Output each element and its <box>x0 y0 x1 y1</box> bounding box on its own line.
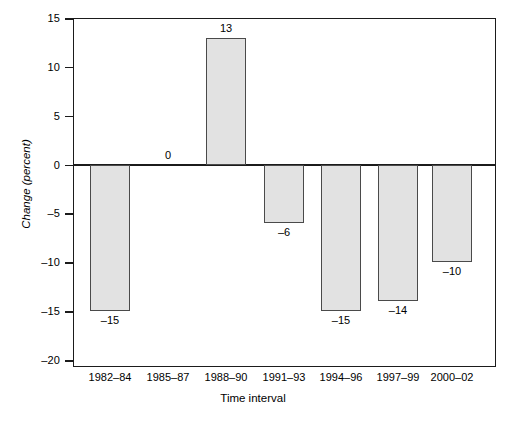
x-tick-label: 2000–02 <box>418 371 486 383</box>
bar-1988-90 <box>206 38 246 165</box>
bar-value-label: –15 <box>90 315 130 326</box>
bar-value-label: –10 <box>432 266 472 277</box>
y-tick-mark <box>65 67 73 69</box>
y-tick-mark <box>65 360 73 362</box>
y-tick-label: –20 <box>41 355 60 366</box>
y-tick-mark <box>65 165 73 167</box>
y-tick-label: –10 <box>41 257 60 268</box>
bar-2000-02 <box>432 165 472 263</box>
y-tick-label: –15 <box>41 306 60 317</box>
bar-1982-84 <box>90 165 130 312</box>
y-tick-mark <box>65 262 73 264</box>
y-tick-label: 5 <box>54 111 60 122</box>
y-tick-mark <box>65 311 73 313</box>
y-tick-label: 10 <box>48 62 60 73</box>
bar-value-label: –14 <box>378 305 418 316</box>
y-tick-mark <box>65 213 73 215</box>
bar-1991-93 <box>264 165 304 224</box>
bar-value-label: –6 <box>264 227 304 238</box>
y-tick-label: –5 <box>48 208 60 219</box>
x-axis-title: Time interval <box>0 392 506 404</box>
y-tick-mark <box>65 116 73 118</box>
bar-value-label: 0 <box>148 150 188 161</box>
bar-chart: 15 10 5 0 –5 –10 –15 –20 Change (percent… <box>0 0 506 422</box>
y-axis-title: Change (percent) <box>20 114 32 254</box>
y-tick-mark <box>65 18 73 20</box>
bar-value-label: –15 <box>321 315 361 326</box>
bar-value-label: 13 <box>206 23 246 34</box>
y-tick-label: 0 <box>54 160 60 171</box>
bar-1997-99 <box>378 165 418 302</box>
y-tick-label: 15 <box>48 13 60 24</box>
bar-1994-96 <box>321 165 361 312</box>
